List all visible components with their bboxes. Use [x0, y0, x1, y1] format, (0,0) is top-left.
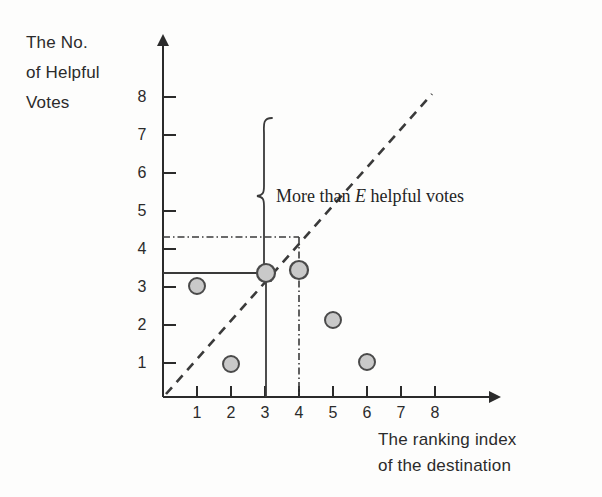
y-axis-ticks	[163, 97, 176, 363]
y-tick-label-7: 7	[132, 126, 152, 144]
brace-bracket	[257, 118, 272, 281]
data-point	[359, 354, 375, 370]
x-tick-label-2: 2	[221, 404, 241, 422]
y-axis-title-line-3: Votes	[26, 88, 100, 118]
y-tick-label-2: 2	[132, 316, 152, 334]
y-tick-label-4: 4	[132, 240, 152, 258]
data-points	[189, 261, 375, 372]
data-point	[189, 278, 205, 294]
x-axis-title-line-1: The ranking index	[378, 427, 517, 453]
x-tick-label-6: 6	[357, 404, 377, 422]
data-point	[325, 312, 341, 328]
x-tick-label-1: 1	[187, 404, 207, 422]
y-tick-label-8: 8	[132, 88, 152, 106]
x-axis-ticks	[197, 386, 435, 397]
y-tick-label-3: 3	[132, 278, 152, 296]
annotation-prefix: More than	[276, 186, 355, 206]
y-axis-title-line-1: The No.	[26, 28, 100, 58]
x-axis-title: The ranking index of the destination	[378, 427, 517, 479]
x-tick-label-7: 7	[391, 404, 411, 422]
figure-container: The No. of Helpful Votes The ranking ind…	[0, 0, 602, 497]
y-tick-label-5: 5	[132, 202, 152, 220]
y-tick-label-1: 1	[132, 354, 152, 372]
annotation-symbol: E	[355, 186, 366, 206]
x-tick-label-4: 4	[289, 404, 309, 422]
x-tick-label-8: 8	[425, 404, 445, 422]
y-axis-title-line-2: of Helpful	[26, 58, 100, 88]
brace-annotation-label: More than E helpful votes	[276, 186, 464, 207]
data-point	[257, 264, 275, 282]
x-tick-label-3: 3	[255, 404, 275, 422]
y-axis-title: The No. of Helpful Votes	[26, 28, 100, 118]
annotation-suffix: helpful votes	[366, 186, 464, 206]
x-tick-label-5: 5	[323, 404, 343, 422]
y-tick-label-6: 6	[132, 164, 152, 182]
data-point	[223, 356, 239, 372]
data-point	[290, 261, 308, 279]
x-axis-title-line-2: of the destination	[378, 453, 517, 479]
